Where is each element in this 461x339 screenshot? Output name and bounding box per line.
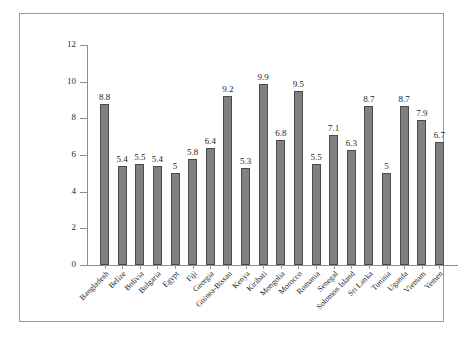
bar-slot: 5.8 [184,45,202,265]
bar-georgia[interactable] [206,148,215,265]
bar-slot: 5.5 [307,45,325,265]
bar-solomon-island[interactable] [347,150,356,266]
bar-guinea-bissau[interactable] [223,96,232,265]
y-tick-label: 2 [50,223,76,232]
bar-slot: 9.9 [254,45,272,265]
y-tick-label: 8 [50,113,76,122]
bar-fiji[interactable] [188,159,197,265]
chart-frame: 024681012 8.85.45.55.455.86.49.25.39.96.… [19,13,444,322]
x-tick [105,265,106,269]
bar-slot: 9.2 [219,45,237,265]
bar-egypt[interactable] [171,173,180,265]
y-tick-12 [80,45,87,46]
x-tick [193,265,194,269]
bar-bulgaria[interactable] [153,166,162,265]
bar-morocco[interactable] [294,91,303,265]
x-tick [404,265,405,269]
bar-slot: 5.4 [149,45,167,265]
x-tick [281,265,282,269]
y-tick-2 [80,228,87,229]
bar-tunisia[interactable] [382,173,391,265]
x-tick [422,265,423,269]
bar-senegal[interactable] [329,135,338,265]
x-tick [157,265,158,269]
bar-yemen[interactable] [435,142,444,265]
bar-romania[interactable] [312,164,321,265]
x-tick [175,265,176,269]
x-tick [334,265,335,269]
x-tick [263,265,264,269]
x-tick-label-egypt: Egypt [162,270,181,289]
x-tick [298,265,299,269]
bar-belize[interactable] [118,166,127,265]
bar-kiribati[interactable] [259,84,268,266]
y-tick-6 [80,155,87,156]
x-tick-label-bangladesh: Bangladesh [78,270,110,302]
y-tick-8 [80,118,87,119]
bar-slot: 6.3 [342,45,360,265]
x-tick-label-yemen: Yemen [424,270,445,291]
bar-bolivia[interactable] [135,164,144,265]
x-tick [316,265,317,269]
plot-area: 8.85.45.55.455.86.49.25.39.96.89.55.57.1… [87,45,457,265]
bar-slot: 8.7 [360,45,378,265]
y-tick-label: 6 [50,150,76,159]
y-tick-0 [80,265,87,266]
x-tick [369,265,370,269]
bar-sri-lanka[interactable] [364,106,373,266]
bar-slot: 7.9 [413,45,431,265]
bar-slot: 6.4 [202,45,220,265]
bar-value-label: 6.7 [427,131,451,140]
x-tick [210,265,211,269]
x-tick [228,265,229,269]
y-tick-label: 0 [50,260,76,269]
bar-kenya[interactable] [241,168,250,265]
x-axis-line [87,265,458,266]
x-tick [439,265,440,269]
bar-mongolia[interactable] [276,140,285,265]
bar-slot: 5 [378,45,396,265]
x-tick [351,265,352,269]
bar-uganda[interactable] [400,106,409,266]
y-tick-label: 4 [50,187,76,196]
bar-slot: 6.8 [272,45,290,265]
bar-slot: 7.1 [325,45,343,265]
bar-bangladesh[interactable] [100,104,109,265]
y-tick-label: 12 [50,40,76,49]
bar-slot: 8.7 [395,45,413,265]
y-tick-10 [80,82,87,83]
bar-slot: 6.7 [431,45,449,265]
x-tick [246,265,247,269]
x-tick [122,265,123,269]
y-tick-4 [80,192,87,193]
y-tick-label: 10 [50,77,76,86]
bar-vietnam[interactable] [417,120,426,265]
